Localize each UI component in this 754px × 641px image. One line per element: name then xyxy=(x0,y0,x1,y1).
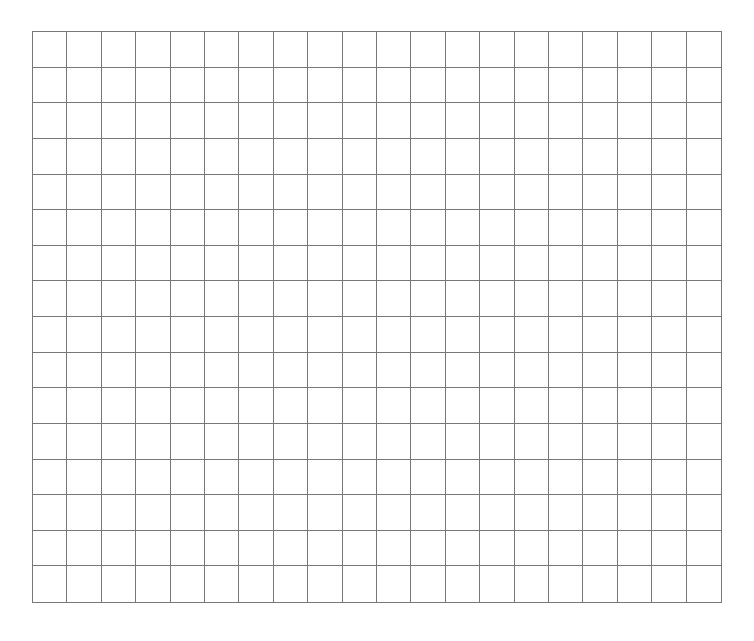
grid-cell xyxy=(67,103,101,139)
grid-cell xyxy=(480,281,514,317)
grid-cell xyxy=(446,388,480,424)
grid-cell xyxy=(171,460,205,496)
grid-cell xyxy=(583,317,617,353)
grid-cell xyxy=(308,460,342,496)
grid-cell xyxy=(67,531,101,567)
canvas xyxy=(0,0,754,641)
grid-cell xyxy=(549,32,583,68)
grid-cell xyxy=(652,210,686,246)
grid-cell xyxy=(446,317,480,353)
grid-cell xyxy=(583,68,617,104)
grid-cell xyxy=(549,495,583,531)
grid-cell xyxy=(274,353,308,389)
grid-cell xyxy=(480,388,514,424)
grid-cell xyxy=(652,388,686,424)
grid-cell xyxy=(171,531,205,567)
grid-cell xyxy=(102,495,136,531)
grid-cell xyxy=(102,246,136,282)
grid-cell xyxy=(67,281,101,317)
grid-cell xyxy=(652,531,686,567)
grid-cell xyxy=(411,103,445,139)
grid-cell xyxy=(446,32,480,68)
grid-cell xyxy=(67,139,101,175)
grid-cell xyxy=(343,566,377,602)
grid-cell xyxy=(480,424,514,460)
grid-cell xyxy=(239,317,273,353)
grid-cell xyxy=(274,103,308,139)
grid-cell xyxy=(33,388,67,424)
grid-cell xyxy=(687,68,721,104)
grid-cell xyxy=(687,460,721,496)
grid-cell xyxy=(33,317,67,353)
grid-cell xyxy=(67,495,101,531)
grid-cell xyxy=(515,103,549,139)
grid-cell xyxy=(377,531,411,567)
grid-cell xyxy=(343,175,377,211)
grid-cell xyxy=(687,281,721,317)
grid-cell xyxy=(343,32,377,68)
grid-cell xyxy=(618,32,652,68)
grid-cell xyxy=(308,210,342,246)
grid-cell xyxy=(171,495,205,531)
grid-cell xyxy=(205,424,239,460)
grid-cell xyxy=(480,175,514,211)
grid-cell xyxy=(515,210,549,246)
grid-cell xyxy=(411,388,445,424)
grid-cell xyxy=(480,210,514,246)
grid-cell xyxy=(171,424,205,460)
grid-cell xyxy=(515,281,549,317)
grid-cell xyxy=(136,388,170,424)
grid-cell xyxy=(480,353,514,389)
grid-cell xyxy=(618,175,652,211)
grid-cell xyxy=(687,175,721,211)
grid-cell xyxy=(377,175,411,211)
grid-cell xyxy=(171,566,205,602)
grid-cell xyxy=(171,139,205,175)
grid-cell xyxy=(583,103,617,139)
grid-cell xyxy=(102,388,136,424)
grid-cell xyxy=(274,566,308,602)
grid-cell xyxy=(343,281,377,317)
grid-cell xyxy=(308,281,342,317)
grid-cell xyxy=(377,388,411,424)
grid-cell xyxy=(136,68,170,104)
grid-cell xyxy=(618,388,652,424)
grid-cell xyxy=(171,68,205,104)
grid-cell xyxy=(583,210,617,246)
grid-cell xyxy=(377,353,411,389)
grid-cell xyxy=(549,246,583,282)
grid-cell xyxy=(411,246,445,282)
grid-cell xyxy=(411,460,445,496)
grid-cell xyxy=(308,531,342,567)
grid-cell xyxy=(102,460,136,496)
grid-cell xyxy=(33,495,67,531)
grid-cell xyxy=(549,460,583,496)
grid-cell xyxy=(618,210,652,246)
grid-cell xyxy=(377,210,411,246)
grid-cell xyxy=(687,210,721,246)
grid-cell xyxy=(171,210,205,246)
grid-cell xyxy=(205,32,239,68)
grid-cell xyxy=(687,32,721,68)
grid-cell xyxy=(274,32,308,68)
grid-cell xyxy=(377,495,411,531)
grid-cell xyxy=(549,317,583,353)
grid-cell xyxy=(205,68,239,104)
grid-cell xyxy=(549,388,583,424)
grid-cell xyxy=(171,353,205,389)
grid-cell xyxy=(67,317,101,353)
grid-cell xyxy=(549,103,583,139)
grid-cell xyxy=(136,495,170,531)
grid-cell xyxy=(515,68,549,104)
grid-cell xyxy=(274,68,308,104)
grid-cell xyxy=(583,32,617,68)
grid-cell xyxy=(377,246,411,282)
grid-cell xyxy=(343,139,377,175)
grid-cell xyxy=(239,353,273,389)
grid-cell xyxy=(171,103,205,139)
grid-cell xyxy=(33,210,67,246)
grid-cell xyxy=(67,68,101,104)
grid-cell xyxy=(205,460,239,496)
grid-cell xyxy=(136,424,170,460)
grid-cell xyxy=(343,246,377,282)
